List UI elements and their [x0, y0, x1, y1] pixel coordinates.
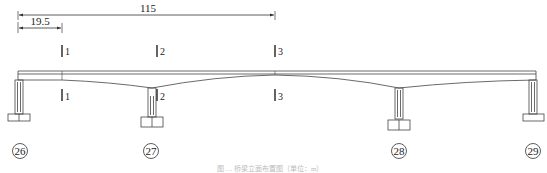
- dimension-label-side: 19.5: [30, 15, 50, 27]
- dimension-label-overall: 115: [140, 2, 157, 14]
- svg-text:27: 27: [146, 145, 158, 157]
- svg-text:28: 28: [394, 145, 406, 157]
- pier-label-28: 28: [392, 144, 407, 159]
- section-label-1-bottom: 1: [65, 91, 70, 102]
- section-label-2-bottom: 2: [160, 91, 165, 102]
- pier-label-27: 27: [144, 144, 159, 159]
- section-label-2-top: 2: [160, 46, 165, 57]
- dimension-side-segment: 19.5: [18, 15, 62, 33]
- dimension-overall: 115: [18, 2, 275, 20]
- svg-text:29: 29: [528, 145, 540, 157]
- figure-caption: 图 … 桥梁立面布置图（单位：m）: [217, 164, 324, 173]
- section-label-3-bottom: 3: [278, 91, 283, 102]
- section-mark-2: 2 2: [157, 45, 165, 102]
- section-mark-3: 3 3: [275, 45, 283, 102]
- pier-label-26: 26: [13, 144, 28, 159]
- section-label-1-top: 1: [65, 46, 70, 57]
- svg-text:26: 26: [15, 145, 27, 157]
- pier-29: [523, 80, 544, 121]
- pier-26: [8, 80, 30, 121]
- pier-28: [388, 88, 410, 130]
- girder: [18, 71, 536, 88]
- pier-label-29: 29: [526, 144, 541, 159]
- section-mark-1: 1 1: [62, 45, 70, 102]
- bridge-elevation-diagram: 115 19.5 1 1 2 2 3 3: [0, 0, 547, 173]
- section-label-3-top: 3: [278, 46, 283, 57]
